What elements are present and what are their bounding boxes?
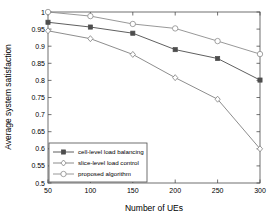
x-axis-title: Number of UEs <box>125 203 183 213</box>
data-point-square-filled <box>216 56 220 60</box>
data-point-circle-open <box>88 13 93 18</box>
data-point-square-filled <box>46 20 50 24</box>
data-point-diamond-open <box>173 75 178 81</box>
data-series-group <box>45 9 262 152</box>
y-tick-label: 0.55 <box>31 162 45 169</box>
x-tick-label: 100 <box>85 187 97 194</box>
x-tick-label: 150 <box>127 187 139 194</box>
data-point-square-filled <box>88 25 92 29</box>
y-axis-title: Average system satisfaction <box>3 44 13 150</box>
legend-label: cell-level load balancing <box>78 148 144 155</box>
data-point-diamond-open <box>130 51 135 57</box>
x-tick-label: 200 <box>169 187 181 194</box>
y-tick-label: 0.95 <box>31 26 45 33</box>
series-line <box>48 31 260 149</box>
y-tick-label: 0.7 <box>35 111 45 118</box>
y-tick-label: 0.9 <box>35 43 45 50</box>
data-point-circle-open <box>61 171 66 176</box>
series-slice-level-load-control <box>45 28 262 152</box>
legend-label: slice-level load control <box>78 159 139 166</box>
x-tick-label: 300 <box>254 187 266 194</box>
series-proposed-algorithm <box>45 9 262 56</box>
y-tick-label: 0.6 <box>35 145 45 152</box>
data-point-circle-open <box>215 38 220 43</box>
y-axis-tick-labels: 0.50.550.60.650.70.750.80.850.90.951 <box>31 9 45 187</box>
data-point-circle-open <box>257 51 262 56</box>
chart-legend: cell-level load balancingslice-level loa… <box>49 143 147 182</box>
series-cell-level-load-balancing <box>46 20 262 82</box>
legend-label: proposed algorithm <box>78 170 131 177</box>
legend-item-proposed-algorithm[interactable]: proposed algorithm <box>53 170 131 177</box>
series-line <box>48 12 260 54</box>
data-point-square-filled <box>61 150 65 154</box>
data-point-square-filled <box>131 31 135 35</box>
y-tick-label: 0.8 <box>35 77 45 84</box>
y-tick-label: 0.75 <box>31 94 45 101</box>
data-point-circle-open <box>173 26 178 31</box>
line-chart: 0.50.550.60.650.70.750.80.850.90.951 501… <box>0 0 275 220</box>
data-point-circle-open <box>130 21 135 26</box>
x-tick-label: 250 <box>212 187 224 194</box>
y-tick-label: 0.65 <box>31 128 45 135</box>
chart-figure: 0.50.550.60.650.70.750.80.850.90.951 501… <box>0 0 275 220</box>
data-point-square-filled <box>258 78 262 82</box>
data-point-square-filled <box>173 48 177 52</box>
y-tick-label: 0.5 <box>35 180 45 187</box>
data-point-circle-open <box>45 9 50 14</box>
x-axis-tick-labels: 50100150200250300 <box>44 187 266 194</box>
x-tick-label: 50 <box>44 187 52 194</box>
y-tick-label: 0.85 <box>31 60 45 67</box>
data-point-diamond-open <box>88 36 93 42</box>
series-line <box>48 22 260 80</box>
y-tick-label: 1 <box>41 9 45 16</box>
